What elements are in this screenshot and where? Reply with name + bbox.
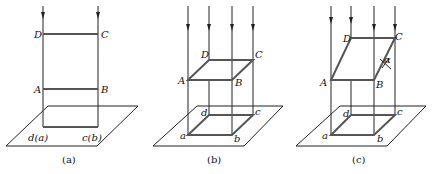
projection-diagram: D C A B d(a) c(b) (a) D C A B d c a b (b… — [0, 0, 434, 174]
label-d: d — [343, 108, 349, 119]
projection-plane — [153, 106, 283, 146]
label-B: B — [234, 77, 242, 88]
label-C: C — [255, 49, 263, 60]
label-d: d — [201, 107, 207, 118]
label-A: A — [319, 77, 327, 88]
panel-a: D C A B d(a) c(b) (a) — [6, 6, 138, 165]
label-B: B — [100, 84, 108, 95]
panel-c: α D C A B d c a b (c) — [296, 6, 426, 165]
label-D: D — [342, 33, 351, 44]
label-b: b — [377, 133, 383, 144]
projection-abcd — [188, 115, 253, 135]
panel-b: D C A B d c a b (b) — [153, 6, 283, 165]
label-c: c — [397, 106, 403, 117]
label-B: B — [375, 79, 383, 90]
label-A: A — [177, 75, 185, 86]
label-D: D — [33, 29, 42, 40]
label-C: C — [395, 31, 403, 42]
caption-a: (a) — [62, 154, 76, 165]
label-alpha: α — [384, 54, 391, 65]
label-b: b — [234, 133, 240, 144]
label-d-a: d(a) — [28, 132, 48, 143]
label-c: c — [255, 106, 261, 117]
object-ABCD — [188, 60, 253, 80]
label-D: D — [200, 49, 209, 60]
projection-abcd — [331, 115, 395, 135]
caption-c: (c) — [352, 154, 366, 165]
label-a: a — [322, 130, 328, 141]
label-a: a — [180, 130, 186, 141]
label-C: C — [101, 29, 109, 40]
caption-b: (b) — [207, 154, 221, 165]
label-A: A — [33, 84, 41, 95]
projection-plane — [296, 106, 426, 146]
label-c-b: c(b) — [82, 132, 102, 143]
